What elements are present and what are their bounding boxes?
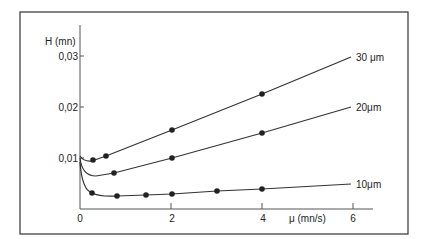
x-tick-label: 4	[260, 213, 266, 224]
x-axis-label: μ (mn/s)	[289, 213, 326, 224]
y-tick-label: 0,01	[59, 153, 79, 164]
x-tick-label: 6	[350, 213, 356, 224]
chart-frame	[20, 12, 408, 234]
x-tick-label: 2	[169, 213, 175, 224]
series-label-10um: 10μm	[356, 179, 381, 190]
series-label-30um: 30 μm	[356, 52, 384, 63]
chart: H (mn) 0,03 0,02 0,01 0 2 4 6 μ (mn/s) 3…	[0, 0, 425, 239]
series-20um-line	[80, 107, 351, 176]
y-tick-label: 0,03	[59, 51, 79, 62]
x-tick-label: 0	[77, 213, 83, 224]
series-label-20um: 20μm	[356, 102, 381, 113]
y-axis-label: H (mn)	[45, 36, 76, 47]
y-tick-label: 0,02	[59, 102, 79, 113]
